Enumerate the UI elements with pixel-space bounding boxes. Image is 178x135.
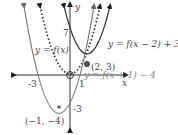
curve-f-shift-left-down <box>24 6 94 114</box>
x-tick-1: 1 <box>79 79 85 89</box>
point-label-neg1-neg4: (−1, −4) <box>25 116 64 126</box>
y-tick-neg3: -3 <box>73 104 82 114</box>
point-label-2-3: (2, 3) <box>91 62 115 72</box>
label-f: y = f(x) <box>34 45 69 55</box>
vertex-point-2-3 <box>84 61 89 66</box>
y-axis-label: y <box>74 2 81 12</box>
vertex-point-neg1-neg4 <box>57 105 61 109</box>
y-tick-7: 7 <box>63 28 69 38</box>
x-tick-neg3: -3 <box>28 79 37 89</box>
function-transform-graph: y x -3 1 7 -3 y = f(x) y = f(x − 2) + 3 … <box>0 0 178 135</box>
label-f-shift-right-up: y = f(x − 2) + 3 <box>107 39 178 49</box>
